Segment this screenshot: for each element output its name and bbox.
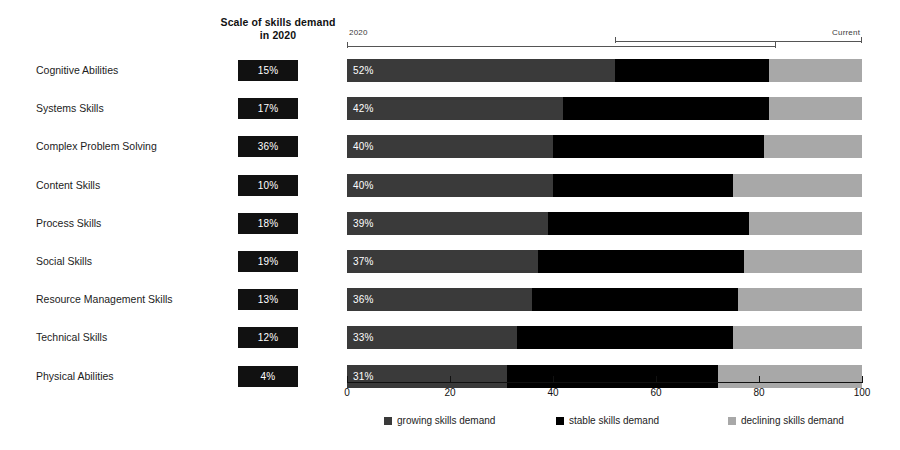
category-label: Social Skills <box>36 254 92 268</box>
stacked-bar: 52% <box>347 59 862 82</box>
category-label: Cognitive Abilities <box>36 63 118 77</box>
scale-of-demand-badge: 10% <box>238 175 298 196</box>
bar-segment-declining <box>769 97 862 120</box>
bar-value-label: 37% <box>353 250 374 273</box>
category-label: Resource Management Skills <box>36 292 173 306</box>
bar-segment-stable <box>532 288 738 311</box>
legend-label: declining skills demand <box>741 415 844 426</box>
table-row: Systems Skills17%42% <box>0 97 900 121</box>
legend-item-declining: declining skills demand <box>728 414 844 427</box>
bar-value-label: 31% <box>353 365 374 388</box>
bar-value-label: 40% <box>353 135 374 158</box>
axis-tick <box>656 376 657 383</box>
bar-segment-declining <box>769 59 862 82</box>
axis-tick-label: 100 <box>854 387 871 398</box>
axis-tick-label: 80 <box>753 387 764 398</box>
axis-tick <box>553 376 554 383</box>
scale-of-demand-value: 4% <box>238 366 298 387</box>
scale-of-demand-badge: 36% <box>238 136 298 157</box>
table-row: Content Skills10%40% <box>0 174 900 198</box>
table-row: Process Skills18%39% <box>0 212 900 236</box>
bar-segment-growing <box>347 212 548 235</box>
bar-segment-stable <box>553 135 764 158</box>
scale-of-demand-badge: 17% <box>238 98 298 119</box>
scale-of-demand-value: 10% <box>238 175 298 196</box>
bar-segment-declining <box>749 212 862 235</box>
axis-tick-label: 60 <box>650 387 661 398</box>
scale-of-demand-value: 19% <box>238 251 298 272</box>
bar-value-label: 40% <box>353 174 374 197</box>
table-row: Technical Skills12%33% <box>0 326 900 350</box>
bar-segment-growing <box>347 135 553 158</box>
legend-swatch-icon <box>728 417 736 425</box>
scale-of-demand-value: 13% <box>238 289 298 310</box>
legend-item-growing: growing skills demand <box>384 414 495 427</box>
scale-of-demand-value: 15% <box>238 60 298 81</box>
bar-segment-declining <box>738 288 862 311</box>
span-cap-current-end <box>861 37 862 43</box>
annotation-label-2020: 2020 <box>349 28 368 37</box>
bar-value-label: 52% <box>353 59 374 82</box>
scale-of-demand-value: 17% <box>238 98 298 119</box>
bar-value-label: 33% <box>353 326 374 349</box>
bar-segment-declining <box>718 365 862 388</box>
axis-tick <box>759 376 760 383</box>
bar-value-label: 42% <box>353 97 374 120</box>
stacked-bar: 33% <box>347 326 862 349</box>
stacked-bar: 40% <box>347 135 862 158</box>
bar-segment-stable <box>538 250 744 273</box>
category-label: Content Skills <box>36 178 100 192</box>
bar-segment-stable <box>615 59 770 82</box>
span-line-2020 <box>347 46 775 47</box>
bar-segment-growing <box>347 59 615 82</box>
scale-of-demand-badge: 15% <box>238 60 298 81</box>
span-cap-2020-start <box>347 42 348 48</box>
legend-label: stable skills demand <box>569 415 659 426</box>
chart-legend: growing skills demandstable skills deman… <box>0 414 900 430</box>
category-label: Systems Skills <box>36 101 104 115</box>
table-row: Complex Problem Solving36%40% <box>0 135 900 159</box>
scale-of-demand-value: 18% <box>238 213 298 234</box>
bar-segment-growing <box>347 97 563 120</box>
table-row: Social Skills19%37% <box>0 250 900 274</box>
bar-segment-declining <box>764 135 862 158</box>
axis-tick <box>450 376 451 383</box>
axis-tick-label: 20 <box>444 387 455 398</box>
scale-of-demand-badge: 4% <box>238 366 298 387</box>
bar-segment-growing <box>347 174 553 197</box>
stacked-bar: 31% <box>347 365 862 388</box>
chart-page: Scale of skills demand in 2020 2020 Curr… <box>0 0 900 450</box>
bar-segment-stable <box>507 365 718 388</box>
timeline-annotation: 2020 Current <box>0 28 900 54</box>
bar-value-label: 36% <box>353 288 374 311</box>
category-label: Physical Abilities <box>36 369 114 383</box>
bar-segment-growing <box>347 288 532 311</box>
legend-swatch-icon <box>384 417 392 425</box>
table-row: Cognitive Abilities15%52% <box>0 59 900 83</box>
axis-tick <box>347 376 348 383</box>
bar-segment-stable <box>548 212 749 235</box>
scale-of-demand-value: 36% <box>238 136 298 157</box>
bar-segment-declining <box>733 174 862 197</box>
span-line-current <box>615 41 862 42</box>
stacked-bar: 36% <box>347 288 862 311</box>
table-row: Resource Management Skills13%36% <box>0 288 900 312</box>
bar-segment-growing <box>347 250 538 273</box>
scale-of-demand-badge: 19% <box>238 251 298 272</box>
axis-tick <box>862 376 863 383</box>
stacked-bar: 37% <box>347 250 862 273</box>
bar-segment-declining <box>744 250 862 273</box>
category-label: Process Skills <box>36 216 101 230</box>
stacked-bar: 42% <box>347 97 862 120</box>
scale-of-demand-value: 12% <box>238 327 298 348</box>
bar-segment-stable <box>563 97 769 120</box>
category-label: Technical Skills <box>36 330 107 344</box>
category-label: Complex Problem Solving <box>36 139 157 153</box>
stacked-bar: 39% <box>347 212 862 235</box>
axis-tick-label: 0 <box>344 387 350 398</box>
legend-label: growing skills demand <box>397 415 495 426</box>
bar-segment-declining <box>733 326 862 349</box>
bar-segment-stable <box>517 326 733 349</box>
x-axis-line <box>347 382 862 383</box>
annotation-label-current: Current <box>832 28 860 37</box>
